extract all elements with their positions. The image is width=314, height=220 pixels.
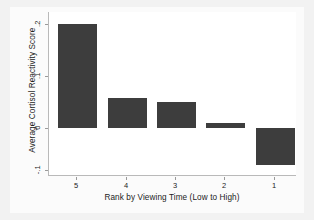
x-tick-label-5: 5 bbox=[64, 182, 88, 190]
x-tick-mark-1 bbox=[274, 177, 275, 180]
bar-rank-2 bbox=[206, 123, 245, 128]
y-tick-label--0.1: -.1 bbox=[34, 162, 42, 178]
x-tick-mark-3 bbox=[175, 177, 176, 180]
x-tick-mark-5 bbox=[76, 177, 77, 180]
y-tick-label-0.1: .1 bbox=[34, 68, 42, 84]
bar-rank-3 bbox=[157, 102, 196, 128]
bar-rank-4 bbox=[108, 98, 147, 128]
bar-rank-1 bbox=[256, 128, 295, 165]
plot-inner bbox=[49, 12, 296, 175]
y-axis-title: Average Cortisol Reactivity Score bbox=[29, 10, 37, 170]
bar-rank-5 bbox=[58, 24, 97, 128]
x-tick-label-3: 3 bbox=[163, 182, 187, 190]
x-axis-title: Rank by Viewing Time (Low to High) bbox=[48, 194, 296, 202]
x-tick-mark-4 bbox=[126, 177, 127, 180]
y-tick-label-0: 0 bbox=[34, 120, 42, 136]
x-tick-label-2: 2 bbox=[212, 182, 236, 190]
x-tick-label-1: 1 bbox=[262, 182, 286, 190]
x-tick-label-4: 4 bbox=[114, 182, 138, 190]
plot-area bbox=[48, 12, 296, 176]
y-tick-label-0.2: .2 bbox=[34, 16, 42, 32]
x-tick-mark-2 bbox=[224, 177, 225, 180]
chart-figure: Average Cortisol Reactivity Score .2 .1 … bbox=[0, 0, 314, 220]
